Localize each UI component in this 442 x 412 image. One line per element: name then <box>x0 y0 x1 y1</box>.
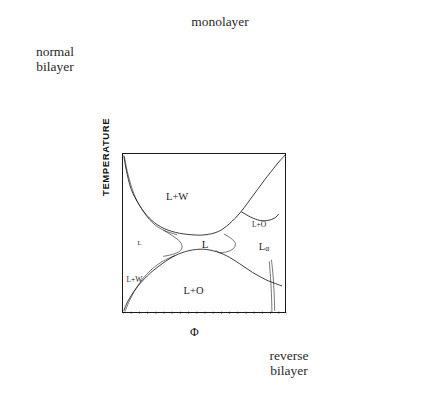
vesicle-dark-canvas <box>343 68 423 150</box>
figure-root: normal bilayer monolayer reverse bilayer… <box>0 0 442 412</box>
reverse-bilayer-canvas <box>337 306 423 390</box>
caption-monolayer: monolayer <box>160 14 280 29</box>
region-label-5: L+W <box>127 274 143 283</box>
region-label-6: L <box>137 239 141 246</box>
lamellar-dark-canvas <box>341 192 423 272</box>
region-label-3: L+O <box>252 220 266 229</box>
lamellar-micrograph-light-field <box>40 196 116 266</box>
region-label-4: Lα <box>259 240 269 253</box>
region-label-2: L+O <box>184 285 204 296</box>
region-label-1: L <box>202 238 209 250</box>
normal-bilayer-cubic-schematic <box>22 66 104 144</box>
lamellar-micrograph-dark-field <box>341 192 423 272</box>
region-label-0: L+W <box>166 190 188 201</box>
monolayer-canvas <box>147 48 231 134</box>
monolayer-cubic-schematic <box>147 48 231 134</box>
phase-diagram-plot: L+WLL+OL+OLαL+WL <box>122 153 286 313</box>
caption-reverse-bilayer-line2: bilayer <box>236 363 342 378</box>
caption-reverse-bilayer: reverse bilayer <box>236 348 342 378</box>
caption-reverse-bilayer-line1: reverse <box>236 348 342 363</box>
vesicle-light-canvas <box>46 288 124 360</box>
vesicle-micrograph-light-field <box>46 288 124 360</box>
lamellar-light-canvas <box>40 196 116 266</box>
phase-boundary-curves <box>123 154 287 314</box>
vesicle-micrograph-dark-field <box>343 68 423 150</box>
reverse-bilayer-cubic-schematic <box>337 306 423 390</box>
normal-bilayer-canvas <box>22 66 104 144</box>
caption-normal-bilayer-line1: normal <box>12 44 98 59</box>
x-axis-label: Φ <box>190 325 199 340</box>
